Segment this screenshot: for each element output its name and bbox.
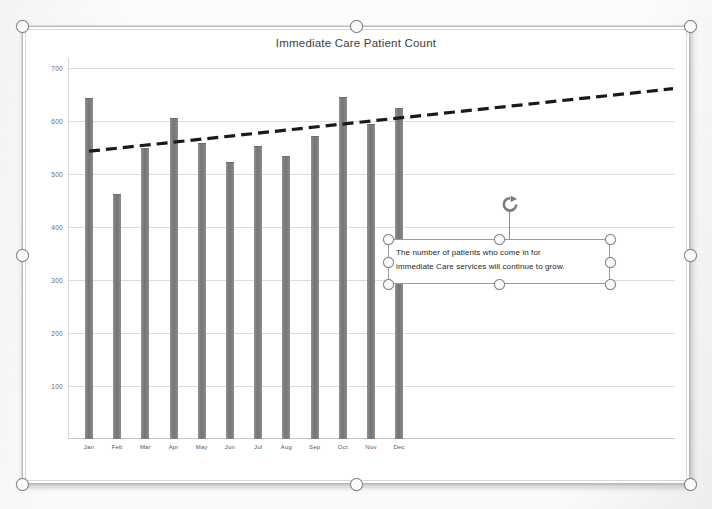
- bar[interactable]: [367, 124, 375, 439]
- x-axis-tick-label: Sep: [309, 444, 320, 450]
- chart-handle-middle-right[interactable]: [684, 249, 697, 262]
- bar[interactable]: [170, 118, 178, 439]
- x-axis-tick-label: Mar: [140, 444, 151, 450]
- x-axis-tick-label: Jan: [84, 444, 94, 450]
- x-axis-tick-label: Nov: [365, 444, 376, 450]
- textbox-handle-bottom-right[interactable]: [605, 279, 616, 290]
- textbox-handle-middle-right[interactable]: [605, 257, 616, 268]
- textbox-handle-middle-left[interactable]: [383, 257, 394, 268]
- bar[interactable]: [141, 148, 149, 439]
- chart-handle-bottom-center[interactable]: [350, 478, 363, 491]
- bar[interactable]: [282, 156, 290, 439]
- y-axis-line: [68, 58, 69, 439]
- y-axis-tick-label: 200: [51, 330, 63, 337]
- textbox-handle-top-right[interactable]: [605, 234, 616, 245]
- x-axis-tick-label: Jun: [225, 444, 235, 450]
- y-axis-tick-label: 300: [51, 277, 63, 284]
- bar[interactable]: [226, 162, 234, 439]
- textbox-text[interactable]: The number of patients who come in for i…: [396, 246, 603, 273]
- y-axis-tick-label: 500: [51, 171, 63, 178]
- textbox-line-1: The number of patients who come in for: [396, 246, 603, 260]
- chart-handle-top-right[interactable]: [684, 20, 697, 33]
- bar[interactable]: [311, 136, 319, 439]
- textbox-handle-top-left[interactable]: [383, 234, 394, 245]
- gridline: [69, 68, 675, 69]
- x-axis-tick-label: Aug: [281, 444, 292, 450]
- x-axis-tick-label: Oct: [338, 444, 348, 450]
- chart-handle-top-left[interactable]: [16, 20, 29, 33]
- textbox-handle-top-center[interactable]: [494, 234, 505, 245]
- gridline: [69, 121, 675, 122]
- bar[interactable]: [113, 194, 121, 439]
- x-axis-tick-label: May: [196, 444, 208, 450]
- chart-title: Immediate Care Patient Count: [23, 37, 689, 49]
- x-axis-tick-label: Dec: [394, 444, 405, 450]
- y-axis-tick-label: 400: [51, 224, 63, 231]
- bar[interactable]: [85, 98, 93, 439]
- y-axis-tick-label: 600: [51, 118, 63, 125]
- textbox-object[interactable]: The number of patients who come in for i…: [388, 239, 610, 284]
- chart-handle-bottom-left[interactable]: [16, 478, 29, 491]
- rotate-icon[interactable]: [499, 195, 521, 215]
- textbox-handle-bottom-left[interactable]: [383, 279, 394, 290]
- textbox-frame[interactable]: The number of patients who come in for i…: [388, 239, 610, 284]
- rotate-handle[interactable]: [499, 195, 521, 239]
- bar[interactable]: [198, 143, 206, 439]
- bar[interactable]: [254, 146, 262, 439]
- textbox-handle-bottom-center[interactable]: [494, 279, 505, 290]
- bar[interactable]: [339, 97, 347, 439]
- rotate-handle-stem: [509, 211, 510, 239]
- textbox-line-2: immediate Care services will continue to…: [396, 260, 603, 274]
- x-axis-tick-label: Apr: [169, 444, 179, 450]
- chart-handle-middle-left[interactable]: [16, 249, 29, 262]
- chart-handle-bottom-right[interactable]: [684, 478, 697, 491]
- chart-handle-top-center[interactable]: [350, 20, 363, 33]
- y-axis-tick-label: 100: [51, 383, 63, 390]
- x-axis-tick-label: Jul: [254, 444, 262, 450]
- y-axis-tick-label: 700: [51, 65, 63, 72]
- x-axis-tick-label: Feb: [112, 444, 123, 450]
